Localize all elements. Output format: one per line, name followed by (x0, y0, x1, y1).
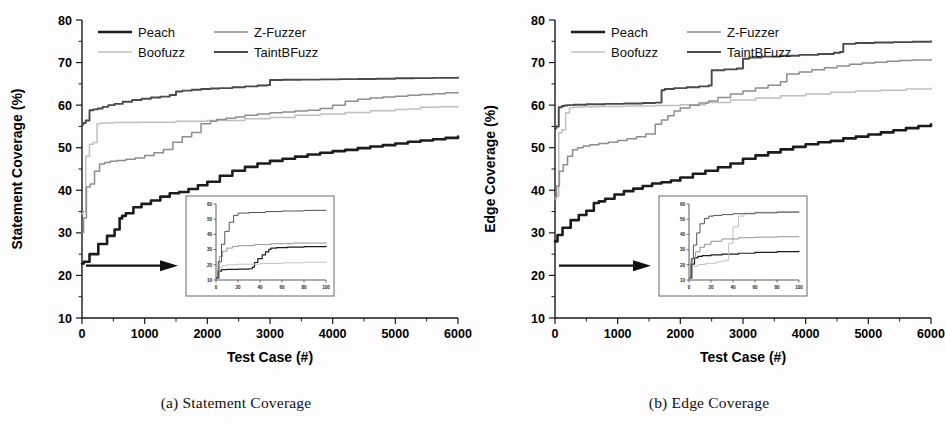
inset-y-tick-label: 30 (207, 247, 213, 252)
inset-y-tick-label: 60 (207, 202, 213, 207)
y-tick-label: 50 (58, 141, 72, 155)
inset-y-tick-label: 10 (680, 278, 686, 283)
x-tick-label: 3000 (256, 327, 284, 341)
legend-label-z-fuzzer: Z-Fuzzer (727, 25, 780, 40)
inset-y-tick-label: 40 (680, 232, 686, 237)
y-tick-label: 70 (531, 56, 545, 70)
y-axis-title: Edge Coverage (%) (482, 105, 498, 233)
y-tick-label: 30 (58, 226, 72, 240)
x-tick-label: 0 (79, 327, 86, 341)
inset-x-tick-label: 20 (708, 285, 714, 290)
inset-x-tick-label: 20 (235, 285, 241, 290)
x-tick-label: 0 (552, 327, 559, 341)
x-tick-label: 1000 (604, 327, 632, 341)
inset-pointer-arrow (86, 260, 178, 271)
chart-edge-coverage: 1020304050607080010002000300040005000600… (473, 0, 945, 370)
inset-y-tick-label: 10 (207, 278, 213, 283)
chart-statement-coverage: 1020304050607080010002000300040005000600… (0, 0, 472, 370)
inset-y-tick-label: 20 (207, 263, 213, 268)
x-tick-label: 4000 (319, 327, 347, 341)
inset-y-tick-label: 50 (680, 217, 686, 222)
inset-x-tick-label: 60 (752, 285, 758, 290)
inset-x-tick-label: 100 (795, 285, 803, 290)
x-tick-label: 4000 (792, 327, 820, 341)
inset-x-tick-label: 0 (215, 285, 218, 290)
y-tick-label: 30 (531, 226, 545, 240)
inset-y-tick-label: 20 (680, 263, 686, 268)
inset-pointer-arrow (559, 260, 651, 271)
inset-y-tick-label: 30 (680, 247, 686, 252)
inset-x-tick-label: 40 (730, 285, 736, 290)
legend-label-taintbfuzz: TaintBFuzz (727, 45, 791, 60)
legend-label-peach: Peach (611, 25, 648, 40)
x-tick-label: 2000 (666, 327, 694, 341)
inset-y-tick-label: 50 (207, 217, 213, 222)
x-tick-label: 5000 (381, 327, 409, 341)
y-tick-label: 10 (58, 312, 72, 326)
legend-label-taintbfuzz: TaintBFuzz (254, 45, 318, 60)
x-tick-label: 5000 (854, 327, 882, 341)
x-tick-label: 6000 (444, 327, 472, 341)
x-tick-label: 6000 (917, 327, 945, 341)
y-tick-label: 60 (58, 99, 72, 113)
inset-x-tick-label: 0 (688, 285, 691, 290)
y-tick-label: 50 (531, 141, 545, 155)
caption-panel-a: (a) Statement Coverage (0, 394, 472, 412)
inset-y-tick-label: 60 (680, 202, 686, 207)
inset-x-tick-label: 100 (322, 285, 330, 290)
y-tick-label: 40 (58, 184, 72, 198)
legend-label-z-fuzzer: Z-Fuzzer (254, 25, 307, 40)
y-tick-label: 20 (58, 269, 72, 283)
y-axis-title: Statement Coverage (%) (9, 88, 25, 249)
y-tick-label: 80 (531, 14, 545, 28)
inset-x-tick-label: 40 (257, 285, 263, 290)
y-tick-label: 60 (531, 99, 545, 113)
panel-statement-coverage: 1020304050607080010002000300040005000600… (0, 0, 472, 434)
legend-label-peach: Peach (138, 25, 175, 40)
x-tick-label: 2000 (193, 327, 221, 341)
y-tick-label: 10 (531, 312, 545, 326)
y-tick-label: 70 (58, 56, 72, 70)
x-tick-label: 3000 (729, 327, 757, 341)
inset-x-tick-label: 60 (279, 285, 285, 290)
x-tick-label: 1000 (131, 327, 159, 341)
series-line-z-fuzzer (555, 59, 931, 197)
y-tick-label: 40 (531, 184, 545, 198)
y-tick-label: 20 (531, 269, 545, 283)
y-tick-label: 80 (58, 14, 72, 28)
inset-x-tick-label: 80 (301, 285, 307, 290)
legend-label-boofuzz: Boofuzz (611, 45, 658, 60)
x-axis-title: Test Case (#) (700, 349, 786, 365)
x-axis-title: Test Case (#) (227, 349, 313, 365)
inset-y-tick-label: 40 (207, 232, 213, 237)
legend-label-boofuzz: Boofuzz (138, 45, 185, 60)
caption-panel-b: (b) Edge Coverage (473, 394, 945, 412)
figure-container: 1020304050607080010002000300040005000600… (0, 0, 945, 434)
inset-x-tick-label: 80 (774, 285, 780, 290)
panel-edge-coverage: 1020304050607080010002000300040005000600… (473, 0, 945, 434)
